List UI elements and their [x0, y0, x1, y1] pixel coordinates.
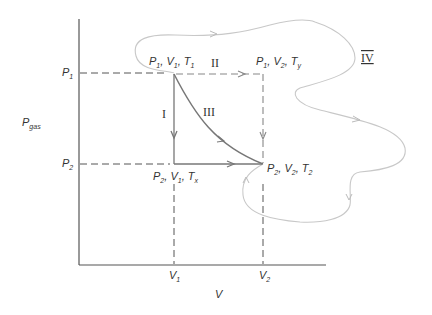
reference-lines: [80, 73, 263, 264]
x-tick-v2: V2: [259, 269, 270, 283]
arrow-icon: [210, 31, 217, 37]
arrow-icon: [346, 194, 352, 200]
path-iii-curve: [174, 74, 263, 164]
state-initial-label: P1, V1, T1: [149, 55, 194, 69]
path-iii-label: III: [203, 105, 215, 119]
path-iv-label: IV: [361, 51, 374, 65]
state-final-label: P2, V2, T2: [267, 162, 312, 176]
state-corner-top-label: P1, V2, Ty: [256, 55, 301, 70]
y-axis-label: Pgas: [22, 116, 41, 131]
arrow-right-icon: [238, 71, 245, 77]
path-i-label: I: [162, 107, 166, 121]
arrow-icon: [243, 177, 249, 183]
pv-diagram: Pgas P1 P2 V1 V2 V P1, V1, T1 P1, V2, Ty…: [0, 0, 432, 315]
path-ii: [176, 71, 266, 163]
path-i: [171, 74, 262, 167]
x-axis-label: V: [215, 288, 224, 300]
y-tick-p2: P2: [62, 157, 73, 171]
path-ii-label: II: [211, 56, 219, 70]
path-iii: [174, 74, 263, 164]
x-tick-v1: V1: [169, 269, 180, 283]
state-corner-bottom-label: P2, V1, Tx: [153, 170, 198, 184]
y-tick-p1: P1: [62, 66, 73, 80]
